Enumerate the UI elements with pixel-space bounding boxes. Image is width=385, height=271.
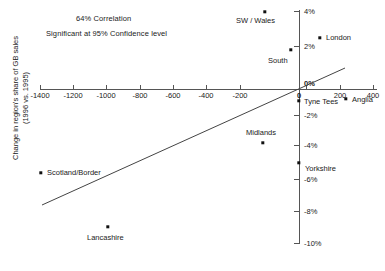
data-point-label: Scotland/Border (47, 168, 101, 177)
y-tick-label: -10% (304, 239, 322, 248)
data-point (263, 10, 266, 13)
trend-line (42, 68, 345, 205)
data-point-label: London (326, 33, 351, 42)
scatter-chart: 64% Correlation Significant at 95% Confi… (0, 0, 385, 271)
data-point-label: Tyne Tees (304, 97, 338, 106)
y-tick-label: 2% (304, 42, 315, 51)
y-tick-label: 4% (304, 7, 315, 16)
y-tick-label: -8% (304, 207, 317, 216)
data-point (289, 48, 292, 51)
annotation-significance: Significant at 95% Confidence level (46, 29, 167, 38)
data-point (297, 99, 300, 102)
data-point (318, 36, 321, 39)
data-point (297, 161, 300, 164)
data-point-label: Yorkshire (305, 164, 336, 173)
y-tick (294, 46, 299, 47)
x-tick (373, 85, 374, 89)
y-tick (294, 211, 299, 212)
annotation-correlation: 64% Correlation (76, 14, 131, 23)
data-point-label: Lancashire (87, 233, 124, 242)
data-point-label: South (268, 56, 288, 65)
data-point (344, 97, 347, 100)
data-point (39, 171, 42, 174)
x-tick (40, 85, 41, 89)
y-axis-label: Change in region's share of GB sales (19… (11, 23, 31, 173)
data-point (261, 141, 264, 144)
y-axis-label-line1: Change in region's share of GB sales (11, 23, 21, 173)
data-point-label: SW / Wales (236, 16, 275, 25)
data-point (106, 225, 109, 228)
data-point-label: Anglia (352, 95, 373, 104)
y-tick (294, 11, 299, 12)
data-point-label: Midlands (246, 128, 276, 137)
y-tick (294, 243, 299, 244)
